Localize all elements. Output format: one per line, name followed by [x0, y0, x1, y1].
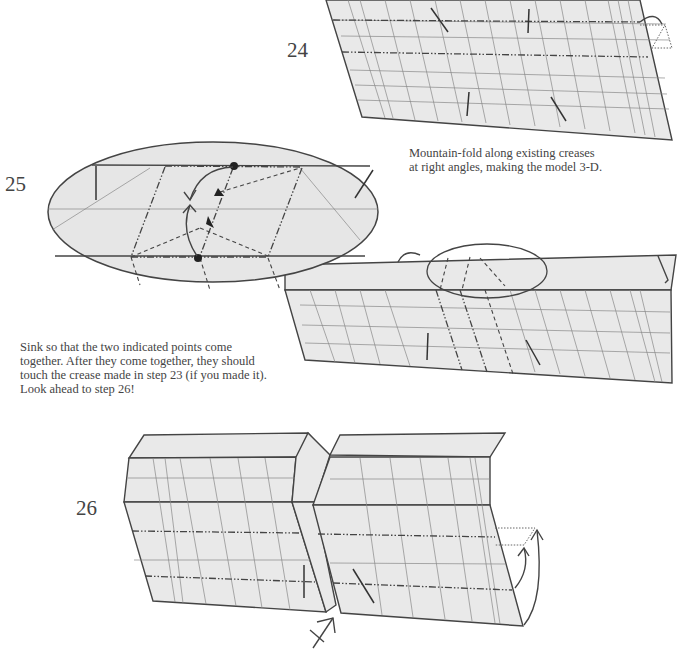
step-26-diagram — [0, 0, 680, 665]
